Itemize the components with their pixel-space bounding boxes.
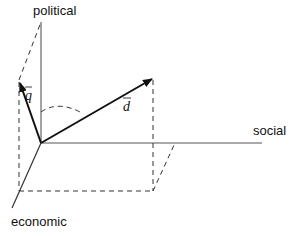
projection-lines: [19, 22, 175, 191]
angle-arc-dashed: [41, 106, 82, 113]
base-right-dashed: [153, 143, 175, 191]
vector-d-label-group: d: [123, 98, 131, 114]
vector-space-diagram: q d political social economic: [0, 0, 293, 236]
political-axis-label: political: [33, 3, 76, 18]
vector-q-label-group: q: [25, 87, 32, 103]
vector-q-label: q: [25, 88, 32, 103]
vector-d-label: d: [123, 99, 131, 114]
q-to-political-dashed: [19, 22, 41, 80]
social-axis-label: social: [253, 123, 286, 138]
vector-d: [41, 79, 152, 143]
economic-axis-label: economic: [11, 214, 67, 229]
economic-axis: [12, 143, 41, 208]
